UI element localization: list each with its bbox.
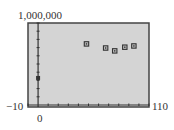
- data-point: [36, 76, 40, 80]
- data-point-center: [133, 45, 134, 46]
- data-point-center: [105, 47, 106, 48]
- data-point-center: [86, 43, 87, 44]
- scatter-plot: [0, 0, 174, 130]
- data-point-center: [114, 50, 115, 51]
- data-point-center: [124, 46, 125, 47]
- plot-area: [28, 23, 149, 107]
